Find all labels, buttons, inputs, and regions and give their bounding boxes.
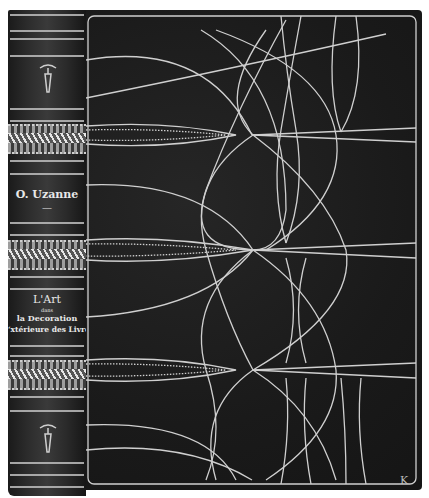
gilt-line-pattern — [86, 10, 422, 490]
tool-ornament-icon — [38, 62, 58, 96]
spine-rule — [10, 234, 84, 236]
spine-rule — [10, 276, 84, 278]
spine-rule — [10, 288, 84, 290]
spine-rule — [10, 108, 84, 110]
front-cover — [86, 10, 422, 490]
wheat-band — [8, 124, 86, 154]
spine-title-4: ‘xtérieure des Livre — [8, 325, 86, 334]
spine-rule — [10, 173, 84, 175]
spine-rule — [10, 396, 84, 398]
spine-separator: — — [8, 202, 86, 213]
book: O. Uzanne — L'Art dans la Decoration ‘xt… — [0, 0, 429, 498]
spine-rule — [10, 486, 84, 488]
wheat-lozenge — [86, 124, 236, 145]
monogram: K — [400, 474, 408, 487]
book-spine: O. Uzanne — L'Art dans la Decoration ‘xt… — [8, 10, 86, 496]
spine-title-1: L'Art — [8, 293, 86, 306]
spine-rule — [10, 462, 84, 464]
wheat-band — [8, 360, 86, 390]
tool-ornament-icon — [38, 422, 58, 456]
spine-rule — [10, 160, 84, 162]
spine-rule — [10, 474, 84, 476]
spine-rule — [10, 14, 84, 16]
spine-author: O. Uzanne — [8, 188, 86, 201]
spine-rule — [10, 55, 84, 57]
wheat-lozenge — [86, 359, 236, 382]
wheat-band — [8, 240, 86, 270]
spine-rule — [10, 30, 84, 32]
spine-rule — [10, 120, 84, 122]
spine-rule — [10, 38, 84, 40]
spine-title-3: la Decoration — [8, 313, 86, 323]
spine-rule — [10, 345, 84, 347]
spine-rule — [10, 410, 84, 412]
spine-rule — [10, 355, 84, 357]
wheat-lozenge — [86, 239, 253, 262]
spine-rule — [10, 222, 84, 224]
